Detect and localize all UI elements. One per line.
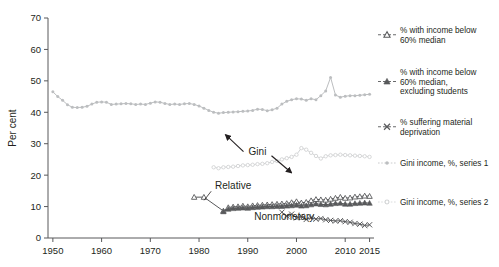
y-tick-label: 70 — [30, 12, 41, 23]
series-marker — [227, 111, 230, 114]
series-marker — [290, 155, 293, 158]
series-marker — [120, 102, 123, 105]
y-tick-label: 40 — [30, 107, 41, 118]
series-marker — [285, 100, 288, 103]
series-marker — [144, 103, 147, 106]
legend-label: Gini income, %, series 1 — [400, 159, 489, 168]
series-marker — [353, 94, 356, 97]
series-5 — [212, 146, 371, 170]
series-marker — [159, 101, 162, 104]
legend-item-1[interactable]: % with income below60% median — [378, 26, 477, 45]
x-tick-label: 2015 — [359, 245, 380, 256]
series-marker — [105, 101, 108, 104]
x-tick-label: 1970 — [140, 245, 161, 256]
chart-series-group — [51, 76, 372, 228]
series-marker — [314, 154, 317, 157]
series-marker — [85, 105, 88, 108]
legend-item-3[interactable]: % suffering materialdeprivation — [378, 118, 472, 137]
chart-plot-area: 0102030405060701950196019701980199020002… — [0, 0, 499, 267]
series-marker — [305, 148, 308, 151]
series-marker — [251, 109, 254, 112]
series-marker — [285, 156, 288, 159]
series-marker — [227, 165, 230, 168]
series-marker — [183, 102, 186, 105]
series-marker — [173, 103, 176, 106]
series-marker — [270, 160, 273, 163]
series-marker — [163, 102, 166, 105]
series-marker — [314, 98, 317, 101]
series-marker — [309, 151, 312, 154]
series-marker — [339, 96, 342, 99]
y-tick-label: 10 — [30, 201, 41, 212]
series-marker — [334, 94, 337, 97]
legend-item-2[interactable]: % with income below60% median,excluding … — [378, 68, 477, 96]
legend-item-5[interactable]: Gini income, %, series 2 — [378, 198, 489, 207]
annotation-label-relative: Relative — [215, 180, 252, 191]
series-marker — [110, 103, 113, 106]
series-marker — [202, 107, 205, 110]
series-marker — [76, 106, 79, 109]
series-marker — [115, 103, 118, 106]
chart-container: 0102030405060701950196019701980199020002… — [0, 0, 499, 267]
series-marker — [217, 167, 220, 170]
series-marker — [338, 194, 343, 199]
legend-item-4[interactable]: Gini income, %, series 1 — [378, 159, 489, 168]
series-marker — [266, 109, 269, 112]
series-marker — [237, 110, 240, 113]
series-marker — [385, 200, 389, 204]
series-marker — [275, 107, 278, 110]
series-marker — [149, 102, 152, 105]
annotation-label-nonmonetary: Nonmonetary — [254, 211, 314, 222]
x-tick-label: 1980 — [188, 245, 209, 256]
series-marker — [193, 103, 196, 106]
series-marker — [295, 153, 298, 156]
series-marker — [305, 99, 308, 102]
series-marker — [212, 111, 215, 114]
series-marker — [348, 154, 351, 157]
y-tick-label: 50 — [30, 75, 41, 86]
x-tick-label: 1990 — [237, 245, 258, 256]
series-marker — [300, 146, 303, 149]
series-marker — [280, 103, 283, 106]
series-marker — [246, 163, 249, 166]
series-marker — [154, 100, 157, 103]
series-marker — [368, 93, 371, 96]
series-marker — [231, 165, 234, 168]
legend-label: 60% median, — [400, 78, 448, 87]
series-marker — [256, 162, 259, 165]
series-marker — [290, 98, 293, 101]
series-marker — [207, 109, 210, 112]
y-tick-label: 60 — [30, 44, 41, 55]
series-marker — [358, 154, 361, 157]
x-tick-label: 1950 — [42, 245, 63, 256]
series-marker — [95, 101, 98, 104]
series-marker — [246, 110, 249, 113]
series-marker — [353, 154, 356, 157]
chart-legend: % with income below60% median% with inco… — [378, 26, 489, 207]
series-marker — [66, 103, 69, 106]
x-tick-label: 2010 — [335, 245, 356, 256]
series-marker — [324, 155, 327, 158]
legend-label: deprivation — [400, 128, 441, 137]
series-marker — [319, 94, 322, 97]
series-marker — [251, 163, 254, 166]
series-marker — [363, 93, 366, 96]
series-marker — [51, 90, 54, 93]
series-marker — [344, 153, 347, 156]
relative-leader-line — [204, 191, 211, 200]
series-marker — [217, 112, 220, 115]
legend-label: 60% median — [400, 36, 446, 45]
series-marker — [129, 102, 132, 105]
series-marker — [139, 103, 142, 106]
series-marker — [329, 154, 332, 157]
series-marker — [368, 155, 371, 158]
x-tick-label: 1960 — [91, 245, 112, 256]
series-marker — [212, 166, 215, 169]
series-marker — [198, 105, 201, 108]
annotation-label-gini: Gini — [249, 146, 267, 157]
series-marker — [188, 102, 191, 105]
legend-label: excluding students — [400, 87, 468, 96]
y-tick-label: 20 — [30, 170, 41, 181]
gini-arrow-up-left — [226, 135, 244, 152]
y-axis-title: Per cent — [7, 109, 18, 146]
